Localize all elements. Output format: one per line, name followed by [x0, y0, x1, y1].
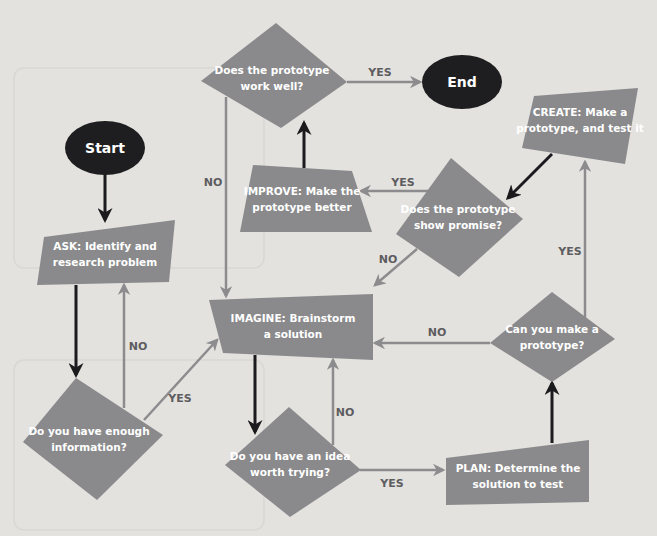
edge-label-workwell-yes: YES: [367, 66, 391, 79]
node-enough-info: Do you have enough information?: [23, 378, 163, 500]
edge-label-enough-yes: YES: [167, 392, 191, 405]
idea-worth-text-line2: worth trying?: [250, 466, 330, 478]
edge-label-workwell-no: NO: [204, 176, 223, 189]
plan-text-line2: solution to test: [473, 478, 564, 490]
improve-text-line2: prototype better: [252, 201, 352, 213]
start-label: Start: [85, 140, 125, 156]
ask-text-line2: research problem: [53, 256, 157, 268]
idea-worth-diamond: [225, 407, 361, 517]
edge-label-promise-yes: YES: [390, 176, 414, 189]
enough-info-diamond: [23, 378, 163, 500]
show-promise-text-line2: show promise?: [414, 219, 502, 231]
plan-text-line1: PLAN: Determine the: [456, 462, 581, 474]
arrow-enough-info-yes-to-imagine: [144, 340, 217, 420]
node-create: CREATE: Make a prototype, and test it: [516, 88, 644, 164]
node-plan: PLAN: Determine the solution to test: [446, 440, 589, 505]
arrow-create-to-show-promise: [508, 154, 552, 198]
node-ask: ASK: Identify and research problem: [37, 220, 175, 285]
edge-label-canmake-no: NO: [428, 326, 447, 339]
node-can-make: Can you make a prototype?: [490, 292, 615, 382]
work-well-text-line1: Does the prototype: [215, 64, 330, 76]
ask-text-line1: ASK: Identify and: [53, 240, 156, 252]
can-make-text-line1: Can you make a: [505, 323, 599, 335]
idea-worth-text-line1: Do you have an idea: [230, 450, 351, 462]
can-make-diamond: [490, 292, 615, 382]
node-start: Start: [65, 121, 145, 175]
node-idea-worth: Do you have an idea worth trying?: [225, 407, 361, 517]
show-promise-text-line1: Does the prototype: [401, 203, 516, 215]
node-imagine: IMAGINE: Brainstorm a solution: [209, 294, 373, 360]
end-label: End: [447, 74, 477, 90]
improve-text-line1: IMPROVE: Make the: [244, 185, 361, 197]
edge-label-promise-no: NO: [379, 253, 398, 266]
can-make-text-line2: prototype?: [520, 339, 585, 351]
enough-info-text-line1: Do you have enough: [28, 425, 149, 437]
create-text-line2: prototype, and test it: [516, 122, 644, 134]
flowchart-canvas: NO YES NO YES NO YES YES NO NO YES Start…: [0, 0, 657, 536]
improve-shape: [240, 165, 372, 232]
edge-label-enough-no: NO: [129, 340, 148, 353]
ask-shape: [37, 220, 175, 285]
node-improve: IMPROVE: Make the prototype better: [240, 165, 372, 232]
imagine-shape: [209, 294, 373, 360]
enough-info-text-line2: information?: [51, 441, 126, 453]
node-end: End: [422, 55, 502, 109]
imagine-text-line1: IMAGINE: Brainstorm: [231, 312, 356, 324]
show-promise-diamond: [396, 158, 523, 277]
edge-label-idea-no: NO: [336, 406, 355, 419]
edge-label-idea-yes: YES: [379, 477, 403, 490]
node-work-well: Does the prototype work well?: [201, 23, 347, 128]
imagine-text-line2: a solution: [264, 328, 323, 340]
work-well-text-line2: work well?: [241, 80, 304, 92]
edge-label-canmake-yes: YES: [557, 245, 581, 258]
create-text-line1: CREATE: Make a: [533, 106, 628, 118]
node-show-promise: Does the prototype show promise?: [396, 158, 523, 277]
